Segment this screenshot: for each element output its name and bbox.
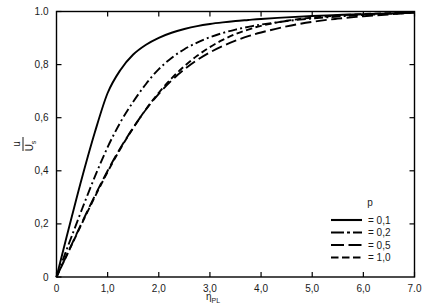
y-axis-title: u Us <box>11 137 37 151</box>
y-tick-label: 0,2 <box>35 218 49 229</box>
x-tick-label: 6,0 <box>356 283 370 294</box>
legend-label: = 1,0 <box>368 252 391 263</box>
x-tick-label: 4,0 <box>254 283 268 294</box>
x-axis-tick-labels: 01,02,03,04,05,06,07.0 <box>54 283 422 294</box>
x-axis-title-subscript: PL <box>212 297 221 304</box>
line-chart: 01,02,03,04,05,06,07.0 00,20,40,60,81.0 … <box>0 0 429 308</box>
y-axis-tick-labels: 00,20,40,60,81.0 <box>35 6 49 283</box>
legend-title: p <box>367 197 373 208</box>
x-tick-label: 0 <box>54 283 60 294</box>
x-tick-label: 1,0 <box>101 283 115 294</box>
x-tick-label: 2,0 <box>152 283 166 294</box>
series-curve <box>57 13 415 277</box>
y-tick-label: 1.0 <box>35 6 49 17</box>
legend-items: = 0,1= 0,2= 0,5= 1,0 <box>331 215 391 264</box>
legend-label: = 0,5 <box>368 240 391 251</box>
series-curve <box>57 13 415 277</box>
y-axis-title-numerator: u <box>11 141 22 147</box>
data-series-group <box>57 13 415 277</box>
legend-label: = 0,1 <box>368 215 391 226</box>
series-curve <box>57 13 415 277</box>
legend-label: = 0,2 <box>368 227 391 238</box>
y-tick-label: 0,4 <box>35 165 49 176</box>
x-axis-ticks <box>57 12 415 278</box>
y-tick-label: 0 <box>43 272 49 283</box>
figure-canvas: 01,02,03,04,05,06,07.0 00,20,40,60,81.0 … <box>0 0 429 308</box>
y-axis-title-denominator: U <box>24 144 35 151</box>
svg-text:Us: Us <box>24 140 37 151</box>
y-axis-title-denominator-subscript: s <box>30 140 37 144</box>
y-axis-ticks <box>57 12 415 278</box>
series-curve <box>57 13 415 277</box>
x-tick-label: 7.0 <box>408 283 422 294</box>
y-tick-label: 0,8 <box>35 59 49 70</box>
x-tick-label: 5,0 <box>305 283 319 294</box>
y-tick-label: 0,6 <box>35 112 49 123</box>
plot-frame <box>57 12 415 278</box>
legend: p = 0,1= 0,2= 0,5= 1,0 <box>331 197 391 263</box>
